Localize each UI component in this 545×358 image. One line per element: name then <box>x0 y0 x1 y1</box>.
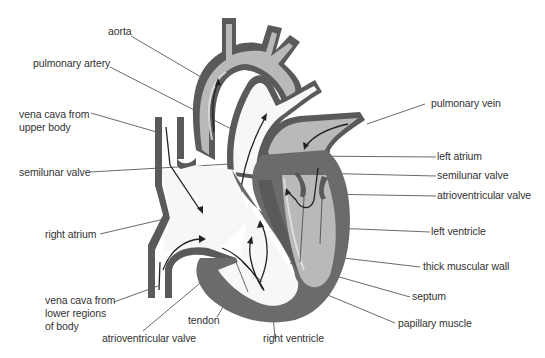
label-thick-muscular-wall: thick muscular wall <box>423 260 509 273</box>
label-atrioventricular-valve-right: atrioventricular valve <box>102 332 196 345</box>
label-papillary-muscle: papillary muscle <box>398 317 472 330</box>
label-right-ventricle: right ventricle <box>263 332 324 345</box>
label-septum: septum <box>412 290 446 303</box>
label-atrioventricular-valve-left: atrioventricular valve <box>437 189 531 202</box>
label-semilunar-valve-right: semilunar valve <box>19 166 90 179</box>
label-aorta: aorta <box>108 25 131 38</box>
label-tendon: tendon <box>188 314 220 327</box>
label-right-atrium: right atrium <box>45 228 96 241</box>
label-pulmonary-artery: pulmonary artery <box>33 57 110 70</box>
label-left-atrium: left atrium <box>437 150 482 163</box>
label-left-ventricle: left ventricle <box>431 225 486 238</box>
label-vena-cava-lower: vena cava from lower regions of body <box>45 294 115 333</box>
label-pulmonary-vein: pulmonary vein <box>431 97 501 110</box>
label-semilunar-valve-left: semilunar valve <box>437 169 508 182</box>
label-vena-cava-upper: vena cava from upper body <box>19 108 89 134</box>
